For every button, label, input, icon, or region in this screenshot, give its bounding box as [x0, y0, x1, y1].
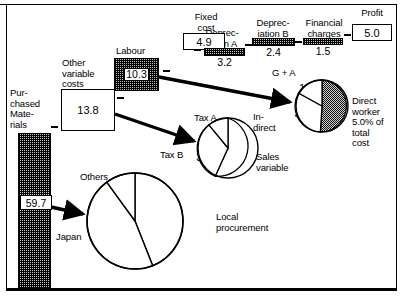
depreciation-a-bar — [204, 48, 245, 56]
separator-dash-7 — [344, 34, 351, 36]
fixed-cost-value: 4.9 — [196, 36, 211, 48]
direct-worker-value: 49 — [327, 100, 345, 113]
japan-label: Japan — [56, 232, 96, 243]
other-variable-costs-box: 13.8 — [61, 89, 115, 131]
financial-charges-bar — [303, 38, 343, 45]
separator-dash-2 — [117, 97, 124, 99]
tax-b-label: Tax B — [160, 150, 194, 161]
indirect-value: 33 — [292, 108, 308, 119]
depreciation-b-label: Deprec- iation B — [249, 18, 297, 39]
local-procurement-label: Local procurement — [216, 212, 272, 233]
profit-value: 5.0 — [364, 27, 379, 39]
sales-variable-value: 57 — [228, 155, 244, 166]
ga-value: 18 — [297, 83, 313, 94]
indirect-label: In- direct — [253, 112, 283, 133]
financial-charges-value: 1.5 — [303, 46, 343, 57]
tax-a-value: 11 — [214, 128, 228, 139]
depreciation-b-bar — [252, 38, 295, 46]
labour-value: 10.3 — [124, 68, 148, 81]
financial-charges-label: Financial charges — [298, 18, 350, 39]
direct-worker-label: Direct worker 5.0% of total cost — [352, 96, 400, 149]
profit-box: 5.0 — [352, 24, 392, 41]
arrow-materials-to-pie — [51, 207, 83, 214]
diagram-canvas: Pur- chased Mate- rials Other variable c… — [0, 0, 401, 302]
frame-border-left — [6, 4, 7, 289]
separator-dash-6 — [295, 41, 302, 43]
purchased-materials-bar — [18, 133, 51, 288]
tax-a-label: Tax A — [194, 113, 228, 124]
frame-border-bottom — [6, 288, 397, 291]
labour-label: Labour — [116, 46, 156, 57]
separator-dash-1 — [51, 126, 58, 128]
depreciation-b-value: 2.4 — [252, 47, 295, 58]
labour-box: 10.3 — [114, 58, 159, 91]
ga-label: G + A — [272, 68, 312, 79]
sales-variable-label: Sales variable — [256, 152, 300, 173]
other-variable-costs-label: Other variable costs — [62, 58, 114, 90]
arrow-labour-to-pie — [159, 77, 290, 102]
arrow-variable-to-pie — [115, 114, 194, 141]
tax-b-value: 32 — [194, 152, 210, 163]
purchased-materials-label: Pur- chased Mate- rials — [10, 88, 48, 130]
others-value: 10 — [113, 188, 129, 199]
frame-border-top — [0, 4, 397, 5]
separator-dash-4 — [194, 49, 201, 51]
local-procurement-value: 44 — [155, 212, 173, 223]
depreciation-a-value: 3.2 — [204, 57, 245, 68]
other-variable-costs-pie — [197, 118, 258, 178]
profit-label: Profit — [352, 8, 392, 19]
japan-value: 46 — [104, 229, 122, 240]
separator-dash-3 — [163, 70, 170, 72]
purchased-materials-value: 59.7 — [20, 195, 52, 210]
other-variable-costs-value: 13.8 — [77, 104, 98, 116]
separator-dash-5 — [245, 44, 252, 46]
others-label: Others — [80, 172, 126, 183]
